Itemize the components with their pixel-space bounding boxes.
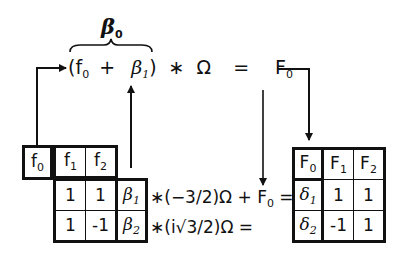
cell-F1: F1 [323,149,354,180]
left-table-header: f1 f2 [53,145,118,179]
left-table-body: 1 1 β1 1 -1 β2 [53,178,148,243]
cell-delta2: δ2 [294,211,323,242]
term-beta1: β1 [131,56,149,78]
curly-brace [70,39,152,52]
main-equation: (f0 + β1) ∗ Ω = F0 [68,58,293,80]
term-f0: f0 [75,56,89,78]
cell-F2: F2 [354,149,385,180]
cell-f2: f2 [86,147,117,178]
right-table: F0 F1 F2 δ1 1 1 δ2 -1 1 [292,147,386,243]
f0-box: f0 [22,145,53,180]
arrow-f0-to-equation [37,68,66,146]
cell-f1: f1 [55,147,86,178]
side-expression-2: ∗(i√3/2)Ω = [150,219,253,236]
cell-beta2: β2 [117,211,147,242]
table-row: F0 F1 F2 [294,149,385,180]
table-row: 1 -1 β2 [55,211,147,242]
side-expression-1: ∗(−3/2)Ω + F0 = [150,189,294,209]
table-row: δ1 1 1 [294,180,385,211]
brace-label-beta0: β0 [101,16,123,40]
cell-delta1: δ1 [294,180,323,211]
cell-F0: F0 [294,149,323,180]
table-row: 1 1 β1 [55,180,147,211]
cell-f0: f0 [24,147,52,179]
term-F0: F0 [275,56,293,78]
omega-symbol: Ω [197,56,212,78]
table-row: δ2 -1 1 [294,211,385,242]
cell-beta1: β1 [117,180,147,211]
